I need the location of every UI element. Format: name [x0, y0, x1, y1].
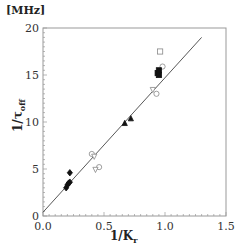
data-point-square — [158, 49, 163, 54]
data-point-circle — [154, 91, 159, 96]
tick-labels: 0.00.51.01.505101520 — [25, 22, 235, 233]
x-tick-label: 1.0 — [156, 220, 174, 233]
x-axis-label: 1/Kr — [110, 229, 138, 245]
y-unit-label: [MHz] — [6, 4, 45, 17]
data-points — [64, 49, 166, 191]
y-tick-label: 20 — [25, 22, 39, 35]
axis-ticks — [43, 28, 226, 216]
data-point-square — [156, 72, 161, 77]
y-tick-label: 15 — [25, 69, 39, 82]
y-tick-label: 10 — [25, 116, 39, 129]
data-point-triangle — [128, 116, 133, 121]
scatter-chart: 0.00.51.01.505101520 [MHz] 1/Kr 1/τoff — [0, 0, 240, 249]
data-point-triangle-down — [93, 167, 98, 172]
data-point-diamond — [67, 170, 72, 176]
data-point-triangle — [122, 120, 127, 125]
y-tick-label: 5 — [32, 163, 39, 176]
plot-frame — [43, 28, 226, 216]
y-axis-label: 1/τoff — [11, 99, 27, 132]
x-tick-label: 1.5 — [217, 220, 235, 233]
y-tick-label: 0 — [32, 210, 39, 223]
